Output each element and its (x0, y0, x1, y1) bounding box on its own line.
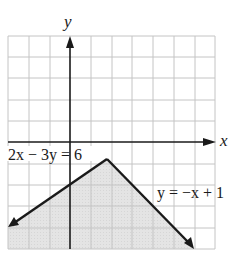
line2-label: y = −x + 1 (157, 184, 224, 202)
x-axis-label: x (219, 131, 228, 150)
line1-label: 2x − 3y = 6 (8, 146, 82, 164)
shaded-region (8, 159, 195, 249)
x-axis-arrow-icon (203, 138, 216, 146)
graph-canvas: y x 2x − 3y = 6 y = −x + 1 (0, 0, 233, 262)
y-axis-arrow-icon (66, 36, 74, 48)
y-axis-label: y (62, 12, 72, 31)
